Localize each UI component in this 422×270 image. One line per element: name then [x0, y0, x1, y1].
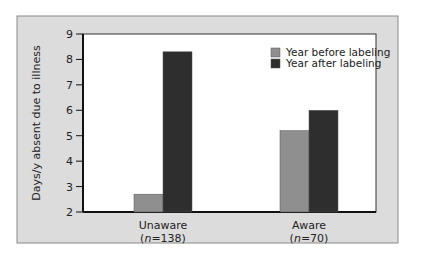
y-tick-label: 9	[66, 28, 73, 41]
legend-swatch	[271, 59, 280, 68]
y-tick-label: 3	[66, 181, 73, 194]
legend-label: Year after labeling	[285, 57, 381, 69]
bar	[163, 52, 192, 212]
y-tick-label: 7	[66, 79, 73, 92]
y-tick-label: 4	[66, 155, 73, 168]
legend-swatch	[271, 48, 280, 57]
category-label: Aware	[292, 219, 326, 232]
y-tick-label: 2	[66, 206, 73, 219]
y-tick-label: 5	[66, 130, 73, 143]
category-sublabel: (n=138)	[140, 232, 186, 245]
category-sublabel: (n=70)	[290, 232, 329, 245]
legend: Year before labelingYear after labeling	[271, 46, 390, 69]
bar	[280, 131, 309, 212]
y-axis-label: Days/y absent due to illness	[30, 45, 43, 201]
category-label: Unaware	[139, 219, 188, 232]
bar-chart: 23456789 Unaware(n=138)Aware(n=70) Year …	[0, 0, 422, 270]
y-tick-label: 6	[66, 104, 73, 117]
y-tick-label: 8	[66, 53, 73, 66]
bar	[134, 194, 163, 212]
bar	[309, 110, 338, 212]
